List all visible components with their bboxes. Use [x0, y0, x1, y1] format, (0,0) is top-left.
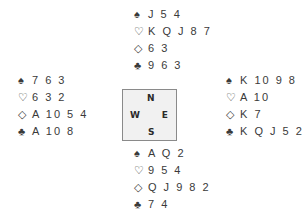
north-diamonds: ◇6 3 [134, 40, 212, 57]
compass-east-label: E [162, 110, 168, 120]
west-spades: ♠7 6 3 [18, 72, 88, 89]
south-spades: ♠A Q 2 [134, 145, 211, 162]
diamond-icon: ◇ [134, 40, 148, 57]
east-spades: ♠K 10 9 8 [226, 72, 302, 89]
east-clubs: ♣K Q J 5 2 [226, 123, 302, 140]
compass-north-label: N [147, 93, 155, 103]
compass-box: N W E S [122, 89, 177, 141]
south-hearts: ♡9 5 4 [134, 162, 211, 179]
south-hand: ♠A Q 2 ♡9 5 4 ◇Q J 9 8 2 ♣7 4 [134, 145, 211, 213]
heart-icon: ♡ [134, 162, 148, 179]
east-diamonds: ◇K 7 [226, 106, 302, 123]
north-hearts: ♡K Q J 8 7 [134, 23, 212, 40]
club-icon: ♣ [134, 57, 148, 74]
west-diamonds: ◇A 10 5 4 [18, 106, 88, 123]
diamond-icon: ◇ [18, 106, 32, 123]
club-icon: ♣ [226, 123, 240, 140]
east-hand: ♠K 10 9 8 ♡A 10 ◇K 7 ♣K Q J 5 2 [226, 72, 302, 140]
diamond-icon: ◇ [134, 179, 148, 196]
heart-icon: ♡ [18, 89, 32, 106]
spade-icon: ♠ [18, 72, 32, 89]
heart-icon: ♡ [226, 89, 240, 106]
spade-icon: ♠ [134, 145, 148, 162]
spade-icon: ♠ [134, 6, 148, 23]
west-hearts: ♡6 3 2 [18, 89, 88, 106]
west-hand: ♠7 6 3 ♡6 3 2 ◇A 10 5 4 ♣A 10 8 [18, 72, 88, 140]
heart-icon: ♡ [134, 23, 148, 40]
east-hearts: ♡A 10 [226, 89, 302, 106]
north-hand: ♠J 5 4 ♡K Q J 8 7 ◇6 3 ♣9 6 3 [134, 6, 212, 74]
west-clubs: ♣A 10 8 [18, 123, 88, 140]
north-clubs: ♣9 6 3 [134, 57, 212, 74]
diamond-icon: ◇ [226, 106, 240, 123]
spade-icon: ♠ [226, 72, 240, 89]
south-diamonds: ◇Q J 9 8 2 [134, 179, 211, 196]
club-icon: ♣ [18, 123, 32, 140]
compass-west-label: W [130, 110, 140, 120]
south-clubs: ♣7 4 [134, 196, 211, 213]
club-icon: ♣ [134, 196, 148, 213]
compass-south-label: S [148, 127, 154, 137]
north-spades: ♠J 5 4 [134, 6, 212, 23]
